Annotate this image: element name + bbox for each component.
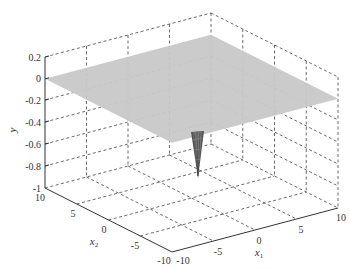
surface-plot: 0.2 0 -0.2 -0.4 -0.6 -0.8 -1 y 10 5 0 -5… bbox=[0, 0, 350, 270]
svg-text:0.2: 0.2 bbox=[29, 52, 42, 63]
svg-text:-5: -5 bbox=[131, 240, 139, 251]
svg-text:10: 10 bbox=[35, 192, 45, 203]
svg-text:0: 0 bbox=[36, 73, 41, 84]
svg-text:-5: -5 bbox=[214, 246, 222, 257]
svg-text:-10: -10 bbox=[157, 255, 170, 266]
z-axis-label: y bbox=[6, 127, 18, 133]
surface bbox=[45, 35, 338, 178]
svg-text:0: 0 bbox=[257, 235, 262, 246]
z-tick-labels: 0.2 0 -0.2 -0.4 -0.6 -0.8 -1 bbox=[25, 52, 41, 194]
svg-text:-0.6: -0.6 bbox=[25, 139, 41, 150]
x2-axis-line bbox=[45, 188, 172, 252]
svg-text:0: 0 bbox=[102, 224, 107, 235]
svg-text:-0.4: -0.4 bbox=[25, 117, 41, 128]
x2-tick-labels: 10 5 0 -5 -10 bbox=[35, 192, 171, 266]
svg-text:10: 10 bbox=[336, 212, 346, 223]
flat-surface-plane bbox=[45, 35, 338, 143]
svg-text:-0.8: -0.8 bbox=[25, 161, 41, 172]
svg-text:-10: -10 bbox=[176, 255, 189, 266]
x2-axis-label: x2 bbox=[89, 235, 99, 249]
svg-text:5: 5 bbox=[299, 224, 304, 235]
svg-text:-0.2: -0.2 bbox=[25, 95, 41, 106]
svg-text:5: 5 bbox=[71, 208, 76, 219]
spike bbox=[191, 131, 204, 178]
x1-axis-label: x1 bbox=[254, 246, 264, 260]
